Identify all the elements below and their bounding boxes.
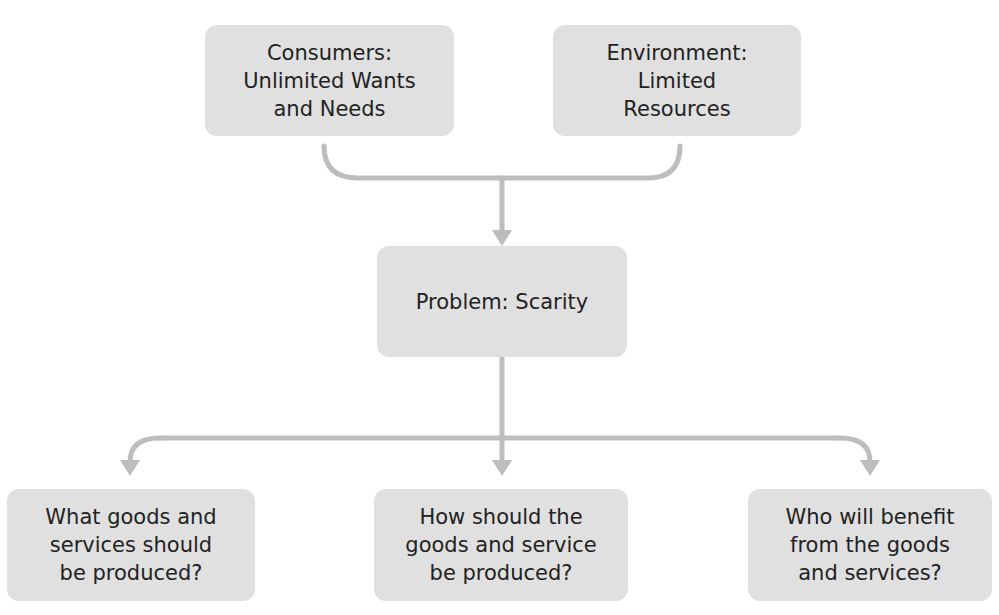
node-problem: Problem: Scarity [377,246,627,357]
arrowhead-who-icon [860,460,880,476]
branch-right-curve [840,438,870,462]
node-what: What goods and services should be produc… [7,489,255,601]
node-environment: Environment: Limited Resources [553,25,801,136]
arrowhead-how-icon [492,460,512,476]
branch-left-curve [130,438,160,462]
node-consumers: Consumers: Unlimited Wants and Needs [205,25,454,136]
node-who: Who will benefit from the goods and serv… [748,489,992,601]
arrowhead-what-icon [120,460,140,476]
merge-bracket [324,146,680,178]
arrowhead-problem-icon [492,230,512,246]
node-how: How should the goods and service be prod… [374,489,628,601]
